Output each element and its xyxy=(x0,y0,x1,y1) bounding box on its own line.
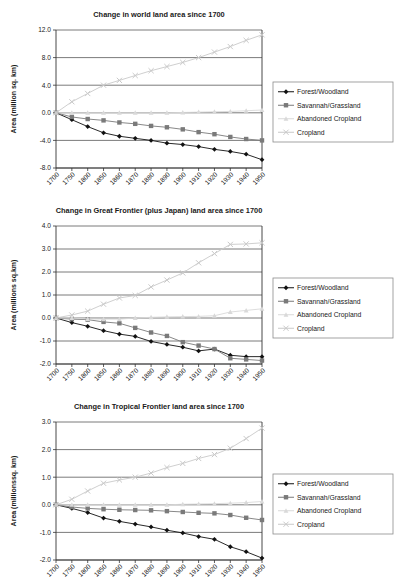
xtick-label: 1890 xyxy=(156,563,172,579)
legend-label: Forest/Woodland xyxy=(297,480,349,487)
data-point-square xyxy=(244,357,248,361)
legend-label: Savannah/Grassland xyxy=(297,102,361,109)
data-point-square xyxy=(149,330,153,334)
xtick-label: 1930 xyxy=(219,171,235,187)
data-point-cross xyxy=(212,251,217,256)
ytick-label: 2.0 xyxy=(42,446,51,453)
ytick-label: -1.0 xyxy=(40,529,52,536)
data-point-diamond xyxy=(228,544,233,549)
xtick-label: 1900 xyxy=(172,171,188,187)
xtick-label: 1750 xyxy=(61,563,77,579)
data-point-diamond xyxy=(180,345,185,350)
xtick-label: 1940 xyxy=(235,171,251,187)
data-point-square xyxy=(117,508,121,512)
data-point-diamond xyxy=(165,342,170,347)
data-point-square xyxy=(133,326,137,330)
xtick-label: 1870 xyxy=(124,367,140,383)
xtick-label: 1800 xyxy=(77,367,93,383)
data-point-square xyxy=(101,507,105,511)
ytick-label: 2.0 xyxy=(42,268,51,275)
xtick-label: 1870 xyxy=(124,171,140,187)
xtick-label: 1880 xyxy=(140,367,156,383)
data-point-square xyxy=(181,127,185,131)
data-point-square xyxy=(228,135,232,139)
legend-label: Cropland xyxy=(297,521,325,529)
data-point-cross xyxy=(69,497,74,502)
xtick-label: 1900 xyxy=(172,367,188,383)
xtick-label: 1930 xyxy=(219,563,235,579)
xtick-label: 1910 xyxy=(187,367,203,383)
xtick-label: 1850 xyxy=(92,367,108,383)
data-point-diamond xyxy=(149,339,154,344)
xtick-label: 1860 xyxy=(108,563,124,579)
data-point-square xyxy=(212,511,216,515)
xtick-label: 1950 xyxy=(251,367,267,383)
chart-title: Change in Tropical Frontier land area si… xyxy=(74,402,244,411)
chart-title: Change in world land area since 1700 xyxy=(93,10,224,19)
data-point-cross xyxy=(148,284,153,289)
data-point-cross xyxy=(164,64,169,69)
data-point-diamond xyxy=(133,522,138,527)
legend-label: Savannah/Grassland xyxy=(297,494,361,501)
ytick-label: -8.0 xyxy=(40,164,52,171)
xtick-label: 1890 xyxy=(156,367,172,383)
data-point-diamond xyxy=(244,549,249,554)
data-point-square xyxy=(284,299,288,303)
xtick-label: 1940 xyxy=(235,367,251,383)
xtick-label: 1750 xyxy=(61,171,77,187)
xtick-label: 1950 xyxy=(251,171,267,187)
data-point-cross xyxy=(212,49,217,54)
data-point-cross xyxy=(244,38,249,43)
data-point-diamond xyxy=(196,534,201,539)
data-point-cross xyxy=(85,488,90,493)
data-point-square xyxy=(117,321,121,325)
xtick-label: 1700 xyxy=(45,563,61,579)
data-point-diamond xyxy=(228,149,233,154)
data-point-square xyxy=(181,510,185,514)
ytick-label: 3.0 xyxy=(42,418,51,425)
data-point-square xyxy=(244,516,248,520)
data-point-square xyxy=(284,103,288,107)
data-point-diamond xyxy=(117,134,122,139)
chart-canvas: Change in world land area since 1700-8.0… xyxy=(0,0,398,196)
data-point-diamond xyxy=(149,524,154,529)
data-point-square xyxy=(228,513,232,517)
xtick-label: 1920 xyxy=(203,367,219,383)
xtick-label: 1950 xyxy=(251,563,267,579)
data-point-square xyxy=(196,511,200,515)
ytick-label: 1.0 xyxy=(42,474,51,481)
legend-label: Savannah/Grassland xyxy=(297,298,361,305)
data-point-cross xyxy=(117,78,122,83)
series-line-3 xyxy=(56,428,262,505)
data-point-square xyxy=(196,343,200,347)
data-point-cross xyxy=(164,465,169,470)
ytick-label: 0.0 xyxy=(42,109,51,116)
data-point-square xyxy=(181,340,185,344)
data-point-square xyxy=(260,358,264,362)
ytick-label: 4.0 xyxy=(42,222,51,229)
legend-label: Cropland xyxy=(297,325,325,333)
data-point-cross xyxy=(244,436,249,441)
data-point-diamond xyxy=(165,528,170,533)
xtick-label: 1860 xyxy=(108,367,124,383)
data-point-cross xyxy=(133,73,138,78)
data-point-diamond xyxy=(180,142,185,147)
data-point-diamond xyxy=(133,334,138,339)
xtick-label: 1800 xyxy=(77,563,93,579)
xtick-label: 1930 xyxy=(219,367,235,383)
ytick-label: -4.0 xyxy=(40,137,52,144)
data-point-square xyxy=(101,118,105,122)
ytick-label: 4.0 xyxy=(42,82,51,89)
ytick-label: 12.0 xyxy=(38,26,51,33)
series-line-0 xyxy=(56,318,262,357)
ytick-label: 0.0 xyxy=(42,314,51,321)
figure-page: Change in world land area since 1700-8.0… xyxy=(0,0,398,588)
data-point-square xyxy=(212,132,216,136)
ytick-label: -2.0 xyxy=(40,360,52,367)
ytick-label: -2.0 xyxy=(40,556,52,563)
data-point-square xyxy=(117,120,121,124)
xtick-label: 1920 xyxy=(203,563,219,579)
series-line-3 xyxy=(56,243,262,318)
data-point-cross xyxy=(164,277,169,282)
legend-label: Abandoned Cropland xyxy=(297,507,361,515)
